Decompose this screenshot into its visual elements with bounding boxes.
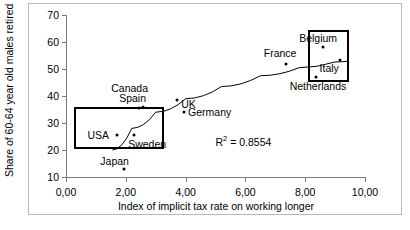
x-axis-tick-label: 2,00 [116, 186, 136, 198]
data-point-label-spain: Spain [119, 92, 146, 104]
x-axis-tick-label: 4,00 [175, 186, 195, 198]
x-axis-tick-label: 8,00 [295, 186, 315, 198]
x-axis-tick-label: 10,00 [352, 186, 378, 198]
scatter-chart-figure: Share of 60-64 year old males retired 10… [0, 0, 410, 230]
data-point-belgium[interactable] [322, 46, 325, 49]
data-point-label-france: France [264, 47, 297, 59]
data-point-germany[interactable] [183, 111, 186, 114]
y-axis-tick-label: 30 [47, 117, 59, 129]
data-point-spain[interactable] [142, 105, 145, 108]
plot-area: JapanUSASwedenCanadaSpainUKGermanyFrance… [66, 15, 365, 177]
data-point-label-germany: Germany [188, 106, 231, 118]
x-axis-tick-mark [186, 177, 187, 182]
data-point-sweden[interactable] [133, 134, 136, 137]
y-axis-tick-label: 10 [47, 171, 59, 183]
x-axis-tick-mark [245, 177, 246, 182]
x-axis-title: Index of implicit tax rate on working lo… [66, 200, 366, 212]
data-point-label-japan: Japan [100, 155, 129, 167]
x-axis-tick-mark [126, 177, 127, 182]
x-axis-tick-label: 6,00 [235, 186, 255, 198]
data-point-uk[interactable] [176, 99, 179, 102]
data-point-france[interactable] [284, 62, 287, 65]
data-point-label-netherlands: Netherlands [290, 80, 347, 92]
y-axis-title: Share of 60-64 year old males retired [2, 15, 16, 177]
y-axis-tick-label: 40 [47, 90, 59, 102]
x-axis-line: 0,002,004,006,008,0010,00 [66, 177, 366, 178]
y-axis-tick-label: 60 [47, 36, 59, 48]
data-point-usa[interactable] [116, 134, 119, 137]
x-axis-tick-mark [66, 177, 67, 182]
data-point-japan[interactable] [123, 167, 126, 170]
data-point-label-belgium: Belgium [299, 32, 337, 44]
x-axis-tick-label: 0,00 [56, 186, 76, 198]
y-axis-tick-label: 20 [47, 144, 59, 156]
data-point-netherlands[interactable] [314, 76, 317, 79]
x-axis-tick-mark [305, 177, 306, 182]
data-point-label-sweden: Sweden [128, 138, 166, 150]
data-point-label-usa: USA [87, 129, 109, 141]
x-axis-tick-mark [365, 177, 366, 182]
data-point-label-italy: Italy [320, 62, 339, 74]
y-axis-tick-label: 50 [47, 63, 59, 75]
r-squared-annotation: R2 = 0.8554 [216, 134, 272, 148]
data-point-canada[interactable] [138, 107, 141, 110]
y-axis-tick-label: 70 [47, 9, 59, 21]
